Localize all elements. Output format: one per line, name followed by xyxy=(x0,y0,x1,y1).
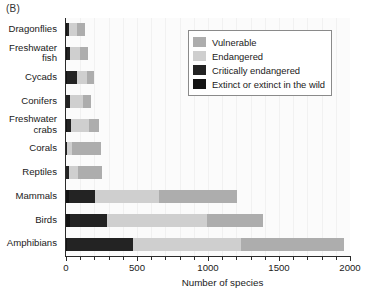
bar-segment-vulnerable xyxy=(83,95,91,108)
gridline xyxy=(336,18,337,256)
chart-legend: VulnerableEndangeredCritically endangere… xyxy=(188,30,332,96)
x-tick-label: 0 xyxy=(63,262,68,273)
bar-row[interactable] xyxy=(66,71,94,84)
category-label: Cycads xyxy=(0,72,57,83)
bar-segment-critical xyxy=(67,71,78,84)
bar-row[interactable] xyxy=(66,238,344,251)
bar-segment-endangered xyxy=(107,214,206,227)
bar-segment-vulnerable xyxy=(159,190,237,203)
x-axis-label-text: Number of species xyxy=(182,277,264,288)
legend-item[interactable]: Extinct or extinct in the wild xyxy=(193,77,325,91)
legend-swatch-endangered xyxy=(193,51,206,61)
x-tick-major xyxy=(279,256,280,261)
x-tick-minor xyxy=(109,256,110,260)
bar-segment-vulnerable xyxy=(72,142,101,155)
x-tick-label: 2000 xyxy=(339,262,360,273)
x-tick-minor xyxy=(322,256,323,260)
bar-segment-endangered xyxy=(70,47,80,60)
x-tick-minor xyxy=(222,256,223,260)
legend-item[interactable]: Vulnerable xyxy=(193,35,325,49)
bar-segment-endangered xyxy=(70,95,83,108)
legend-swatch-extinct xyxy=(193,79,206,89)
legend-item[interactable]: Critically endangered xyxy=(193,63,325,77)
bar-row[interactable] xyxy=(66,142,101,155)
bar-segment-endangered xyxy=(69,166,78,179)
x-tick-minor xyxy=(236,256,237,260)
bar-row[interactable] xyxy=(66,47,88,60)
bar-segment-critical xyxy=(69,190,95,203)
bar-row[interactable] xyxy=(66,190,237,203)
bar-segment-vulnerable xyxy=(207,214,264,227)
category-label: Amphibians xyxy=(0,238,57,249)
x-tick-label: 1500 xyxy=(268,262,289,273)
category-label: Corals xyxy=(0,143,57,154)
x-tick-major xyxy=(66,256,67,261)
bar-segment-endangered xyxy=(77,71,87,84)
legend-swatch-critical xyxy=(193,65,206,75)
bar-segment-vulnerable xyxy=(78,166,101,179)
x-tick-minor xyxy=(80,256,81,260)
x-tick-major xyxy=(137,256,138,261)
bar-segment-endangered xyxy=(133,238,241,251)
bar-row[interactable] xyxy=(66,166,102,179)
bar-segment-vulnerable xyxy=(89,119,99,132)
x-tick-minor xyxy=(265,256,266,260)
category-label: Freshwater crabs xyxy=(0,114,57,135)
bar-row[interactable] xyxy=(66,95,91,108)
category-label: Birds xyxy=(0,215,57,226)
bar-row[interactable] xyxy=(66,119,99,132)
x-tick-major xyxy=(350,256,351,261)
x-tick-minor xyxy=(336,256,337,260)
legend-label: Critically endangered xyxy=(212,65,300,76)
bar-segment-critical xyxy=(70,214,108,227)
bar-row[interactable] xyxy=(66,23,85,36)
bar-row[interactable] xyxy=(66,214,263,227)
legend-label: Extinct or extinct in the wild xyxy=(212,79,325,90)
bar-segment-endangered xyxy=(69,23,78,36)
legend-label: Vulnerable xyxy=(212,37,256,48)
category-label: Freshwater fish xyxy=(0,43,57,64)
x-tick-minor xyxy=(94,256,95,260)
bar-segment-vulnerable xyxy=(87,71,93,84)
x-tick-label: 500 xyxy=(129,262,145,273)
bar-segment-critical xyxy=(67,238,132,251)
x-tick-minor xyxy=(165,256,166,260)
x-axis-label: Number of species xyxy=(0,277,365,288)
x-tick-minor xyxy=(293,256,294,260)
x-tick-minor xyxy=(251,256,252,260)
x-tick-label: 1000 xyxy=(197,262,218,273)
category-label: Dragonflies xyxy=(0,24,57,35)
bar-segment-vulnerable xyxy=(80,47,88,60)
bar-segment-endangered xyxy=(95,190,159,203)
category-label: Reptiles xyxy=(0,167,57,178)
category-label: Mammals xyxy=(0,191,57,202)
legend-swatch-vulnerable xyxy=(193,37,206,47)
category-label: Conifers xyxy=(0,96,57,107)
x-tick-minor xyxy=(194,256,195,260)
bar-segment-endangered xyxy=(71,119,89,132)
legend-item[interactable]: Endangered xyxy=(193,49,325,63)
x-tick-minor xyxy=(180,256,181,260)
bar-segment-vulnerable xyxy=(241,238,345,251)
x-tick-minor xyxy=(123,256,124,260)
x-tick-minor xyxy=(307,256,308,260)
x-tick-minor xyxy=(151,256,152,260)
legend-label: Endangered xyxy=(212,51,263,62)
bar-segment-vulnerable xyxy=(77,23,85,36)
x-tick-major xyxy=(208,256,209,261)
